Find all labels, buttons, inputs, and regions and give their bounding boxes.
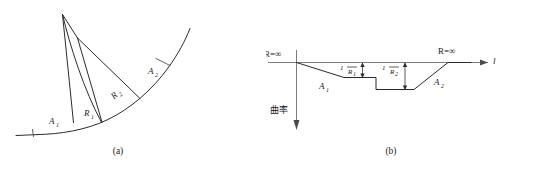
label-curvature-1-numerator: 1 <box>340 64 344 72</box>
label-A1-b-sub: 1 <box>326 87 329 93</box>
label-A2-a-sub: 2 <box>155 72 158 78</box>
label-curvature-1-denominator-sub: 1 <box>353 71 356 77</box>
label-R1-a-text: R <box>83 108 90 118</box>
axis-arrow-right-icon <box>480 60 488 66</box>
caption-b: (b) <box>371 146 411 156</box>
caption-a: (a) <box>98 146 138 156</box>
label-curvature-2-numerator: 1 <box>382 64 386 72</box>
label-A2-a-text: A <box>147 66 154 76</box>
axis-arrow-down-icon <box>294 120 300 130</box>
dimension-arrowhead-2-top-icon <box>403 63 407 68</box>
label-axis-curvature: 曲率 <box>270 104 288 115</box>
label-A2-b-text: A <box>433 77 440 87</box>
label-A2-b-sub: 2 <box>441 83 444 89</box>
radius-line-1 <box>63 15 74 123</box>
label-curvature-2-denominator-sub: 2 <box>395 71 398 77</box>
label-r-infinity-left: R=∞ <box>266 49 282 59</box>
curve-tick-icon <box>156 59 170 66</box>
label-axis-l: l <box>493 56 496 66</box>
label-R2-a: R 2 <box>108 87 124 103</box>
transition-curve <box>37 29 190 135</box>
radius-line-2 <box>78 38 103 122</box>
dimension-arrowhead-1-top-icon <box>360 63 364 68</box>
label-R1-a: R 1 <box>83 108 94 120</box>
label-A1-b: A 1 <box>318 81 329 93</box>
label-R1-a-sub: 1 <box>91 114 94 120</box>
label-A2-a: A 2 <box>147 66 158 78</box>
tangent-line <box>16 135 37 136</box>
radius-line-3 <box>78 38 141 99</box>
label-curvature-2: 1 R 2 <box>382 64 399 78</box>
label-A1-b-text: A <box>318 81 325 91</box>
start-tick-icon <box>33 130 34 137</box>
label-A2-b: A 2 <box>433 77 444 89</box>
label-r-infinity-right: R=∞ <box>438 46 456 56</box>
figure-container: A 1 R 1 R 2 A 2 <box>0 0 533 172</box>
label-A1-a-text: A <box>48 116 55 126</box>
label-curvature-1: 1 R 1 <box>340 64 357 78</box>
label-A1-a: A 1 <box>48 116 59 128</box>
label-A1-a-sub: 1 <box>56 122 59 128</box>
